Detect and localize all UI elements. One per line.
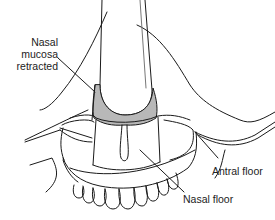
anatomy-drawing bbox=[0, 0, 275, 220]
label-nasal-mucosa-retracted: Nasal mucosa retracted bbox=[8, 36, 58, 72]
label-line-2: mucosa bbox=[8, 48, 58, 60]
leader-antral-floor bbox=[195, 132, 218, 158]
label-line-1: Nasal bbox=[8, 36, 58, 48]
diagram-stage: Nasal mucosa retracted Antral floor Nasa… bbox=[0, 0, 275, 220]
label-line-3: retracted bbox=[8, 60, 58, 72]
leader-nasal-mucosa bbox=[58, 58, 95, 92]
label-antral-floor: Antral floor bbox=[212, 165, 263, 177]
label-nasal-floor: Nasal floor bbox=[183, 193, 233, 205]
